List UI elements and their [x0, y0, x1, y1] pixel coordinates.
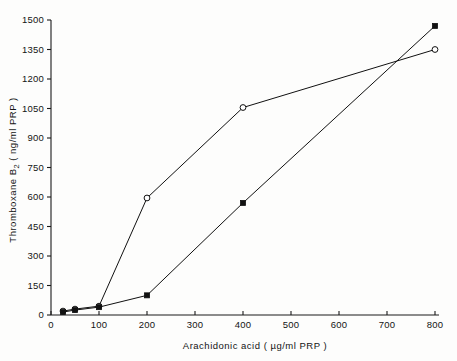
y-axis-title-units: ( ng/ml PRP ) — [7, 97, 18, 163]
y-axis-tick-label: 600 — [28, 191, 44, 202]
chart-figure: 0150300450600750900105012001350150001002… — [0, 0, 457, 361]
x-axis-tick-label: 400 — [235, 319, 251, 330]
y-axis-tick-label: 1050 — [22, 103, 44, 114]
data-point-open-circle — [240, 105, 246, 111]
x-axis-tick-label: 200 — [139, 319, 155, 330]
series-line-filled-square-series — [63, 26, 435, 312]
y-axis-tick-label: 150 — [28, 280, 44, 291]
data-point-open-circle — [432, 47, 438, 53]
data-series — [60, 23, 438, 314]
x-axis-tick-label: 700 — [379, 319, 395, 330]
data-point-filled-square — [73, 308, 78, 313]
x-axis-tick-label: 600 — [331, 319, 347, 330]
x-axis-tick-label: 300 — [187, 319, 203, 330]
x-axis-tick-label: 500 — [283, 319, 299, 330]
y-axis-tick-label: 1500 — [22, 14, 44, 25]
axes — [51, 20, 439, 315]
data-point-filled-square — [97, 305, 102, 310]
x-axis-tick-label: 800 — [427, 319, 443, 330]
x-axis-title: Arachidonic acid ( µg/ml PRP ) — [183, 340, 327, 351]
svg-text:Thromboxane B2 ( ng/ml PRP: Thromboxane B2 ( ng/ml PRP ) — [7, 97, 21, 242]
series-line-open-circle-series — [63, 50, 435, 312]
axis-ticks — [47, 20, 435, 315]
y-axis-tick-label: 300 — [28, 250, 44, 261]
y-axis-title-main: Thromboxane B — [7, 169, 18, 243]
data-point-open-circle — [144, 195, 150, 201]
data-point-filled-square — [433, 23, 438, 28]
x-axis-tick-label: 100 — [91, 319, 107, 330]
data-point-filled-square — [145, 293, 150, 298]
data-point-filled-square — [61, 310, 66, 315]
y-axis-tick-label: 1350 — [22, 44, 44, 55]
y-axis-tick-label: 0 — [39, 309, 44, 320]
y-axis-tick-label: 450 — [28, 221, 44, 232]
axis-tick-labels: 0150300450600750900105012001350150001002… — [22, 14, 443, 330]
y-axis-tick-label: 900 — [28, 132, 44, 143]
x-axis-tick-label: 0 — [48, 319, 53, 330]
y-axis-title: Thromboxane B2 ( ng/ml PRP ) — [7, 97, 21, 242]
data-point-filled-square — [241, 200, 246, 205]
chart-plot-area: 0150300450600750900105012001350150001002… — [0, 0, 457, 361]
y-axis-tick-label: 750 — [28, 162, 44, 173]
y-axis-tick-label: 1200 — [22, 73, 44, 84]
